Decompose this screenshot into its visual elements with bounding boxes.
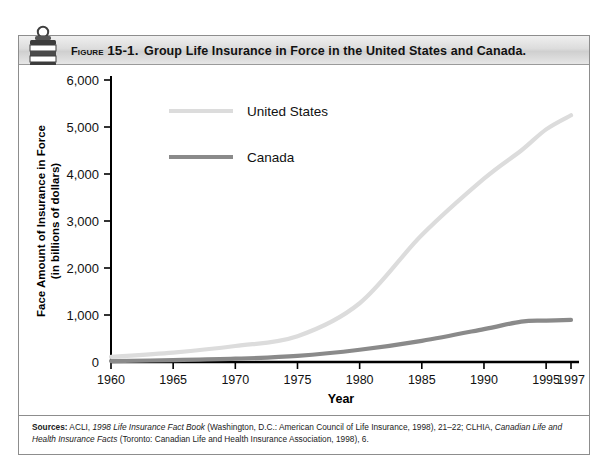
- x-tick-label: 1997: [557, 373, 585, 387]
- y-axis-title-line2: (in billions of dollars): [49, 163, 61, 279]
- source-note: Sources: ACLI, 1998 Life Insurance Fact …: [19, 415, 589, 454]
- legend-label-canada: Canada: [247, 150, 295, 165]
- y-tick-label: 2,000: [66, 261, 99, 276]
- y-tick-label: 0: [92, 355, 99, 370]
- source-segment: (Washington, D.C.: American Council of L…: [205, 422, 495, 432]
- series-line-canada: [111, 320, 571, 361]
- y-tick-label: 1,000: [66, 308, 99, 323]
- x-tick-label: 1975: [284, 373, 312, 387]
- x-tick-label: 1960: [97, 373, 125, 387]
- chart-area: 01,0002,0003,0004,0005,0006,000196019651…: [19, 65, 589, 417]
- figure-box: Figure 15-1. Group Life Insurance in For…: [18, 35, 590, 455]
- figure-page: Figure 15-1. Group Life Insurance in For…: [0, 0, 608, 470]
- x-tick-label: 1990: [470, 373, 498, 387]
- source-label: Sources:: [32, 422, 68, 432]
- figure-header: Figure 15-1. Group Life Insurance in For…: [19, 36, 589, 65]
- figure-number: Figure 15-1.: [71, 44, 139, 58]
- x-tick-label: 1980: [346, 373, 374, 387]
- y-tick-label: 4,000: [66, 167, 99, 182]
- figure-caption: Figure 15-1. Group Life Insurance in For…: [71, 43, 526, 58]
- legend-label-united-states: United States: [247, 104, 328, 119]
- source-segment: (Toronto: Canadian Life and Health Insur…: [117, 434, 368, 444]
- x-axis-title: Year: [328, 392, 355, 406]
- y-tick-label: 6,000: [66, 73, 99, 88]
- source-segment: 1998 Life Insurance Fact Book: [92, 422, 205, 432]
- series-line-united-states: [111, 115, 571, 357]
- source-segment: ACLI,: [68, 422, 93, 432]
- x-tick-label: 1970: [221, 373, 249, 387]
- source-note-text: Sources: ACLI, 1998 Life Insurance Fact …: [32, 422, 577, 445]
- y-tick-label: 3,000: [66, 214, 99, 229]
- x-tick-label: 1965: [159, 373, 187, 387]
- line-chart: 01,0002,0003,0004,0005,0006,000196019651…: [19, 65, 589, 417]
- figure-label-word: Figure: [71, 45, 104, 57]
- figure-label-number: 15-1.: [107, 43, 138, 58]
- y-axis-title-line1: Face Amount of Insurance in Force: [35, 125, 47, 317]
- figure-title: Group Life Insurance in Force in the Uni…: [144, 44, 526, 58]
- y-tick-label: 5,000: [66, 120, 99, 135]
- x-tick-label: 1995: [532, 373, 560, 387]
- x-tick-label: 1985: [408, 373, 436, 387]
